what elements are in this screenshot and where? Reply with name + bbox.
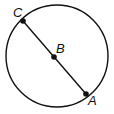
label-b: B: [56, 41, 65, 56]
label-a: A: [87, 93, 97, 108]
label-c: C: [13, 5, 23, 20]
circle-diagram: C B A: [0, 0, 114, 114]
